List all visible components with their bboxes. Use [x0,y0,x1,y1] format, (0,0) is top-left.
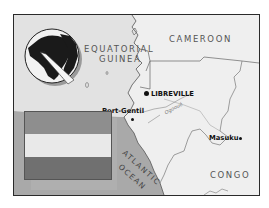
label-libreville: LIBREVILLE [151,91,194,98]
label-cameroon: CAMEROON [169,35,232,44]
label-masuku: Masuku [209,135,239,142]
gabon-flag [24,111,112,180]
capital-marker-icon [144,91,149,96]
city-marker-icon [239,137,242,140]
gabon-map: EQUATORIAL GUINEA CAMEROON CONGO LIBREVI… [13,14,260,196]
flag-stripe-yellow [25,134,111,156]
locator-globe-icon [24,28,80,84]
label-equatorial-guinea-line1: EQUATORIAL [84,45,154,54]
label-equatorial-guinea-line2: GUINEA [99,55,141,64]
flag-stripe-blue [25,157,111,179]
flag-stripe-green [25,112,111,134]
city-marker-icon [131,118,134,121]
label-congo: CONGO [210,171,250,180]
